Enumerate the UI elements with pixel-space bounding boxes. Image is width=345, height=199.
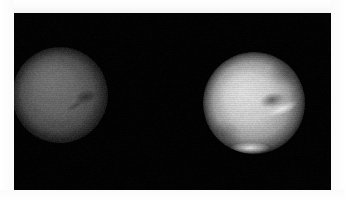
observation-plate bbox=[14, 13, 331, 190]
screenshot-viewport bbox=[0, 0, 345, 199]
planet-disks-canvas bbox=[14, 13, 331, 190]
plate-margin-right bbox=[331, 0, 345, 199]
plate-margin-bottom bbox=[0, 190, 345, 199]
plate-margin-top bbox=[0, 0, 345, 13]
plate-margin-left bbox=[0, 0, 14, 199]
